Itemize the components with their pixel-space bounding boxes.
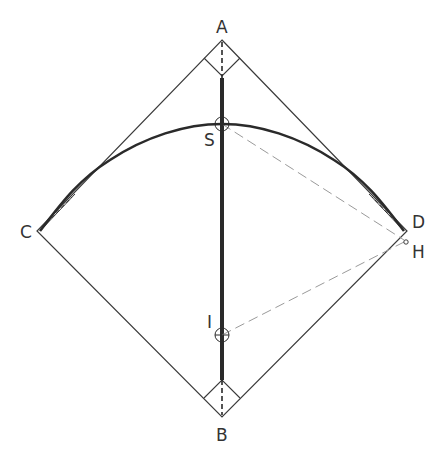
- line-i-h: [222, 242, 404, 335]
- label-d: D: [412, 212, 425, 232]
- label-i: I: [207, 312, 212, 332]
- point-h-marker: [404, 240, 408, 244]
- construction-diagram: A B C D S I H: [0, 0, 445, 462]
- label-s: S: [204, 130, 215, 150]
- label-a: A: [216, 17, 228, 37]
- line-s-h: [222, 124, 404, 240]
- label-b: B: [216, 425, 228, 445]
- label-c: C: [20, 222, 32, 242]
- label-h: H: [412, 242, 425, 262]
